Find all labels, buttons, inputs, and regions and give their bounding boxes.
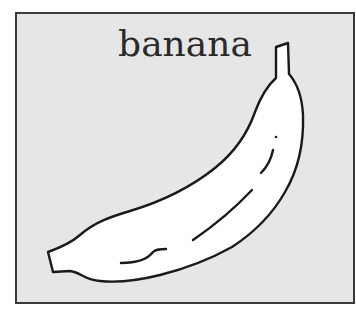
banana-outline [48, 43, 303, 282]
banana-icon [0, 0, 356, 318]
banana-spot [275, 136, 278, 139]
